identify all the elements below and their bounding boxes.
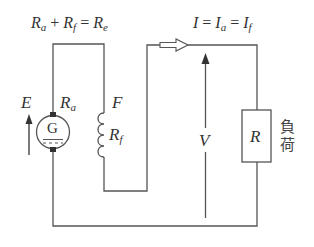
emf-arrow-icon	[26, 114, 33, 155]
inductor-coil-icon	[98, 113, 104, 157]
voltage-label: V	[199, 132, 209, 149]
current-equation: I = Ia = If	[193, 15, 252, 33]
armature-resistance-label: Ra	[60, 94, 76, 113]
wire-bottom	[53, 149, 257, 226]
resistance-equation: Ra + Rf = Re	[31, 15, 108, 33]
wire-field-to-load	[104, 45, 257, 191]
generator-letter: G	[47, 121, 58, 136]
hollow-arrow-right-icon	[160, 39, 188, 51]
field-resistance-label: Rf	[109, 126, 122, 145]
load-caption: 負 荷	[280, 118, 295, 154]
field-label: F	[112, 94, 122, 111]
emf-label: E	[21, 94, 31, 111]
load-resistance-label: R	[250, 128, 260, 145]
circuit-diagram: Ra + Rf = Re I = Ia = If E Ra G F Rf V R…	[0, 0, 314, 247]
